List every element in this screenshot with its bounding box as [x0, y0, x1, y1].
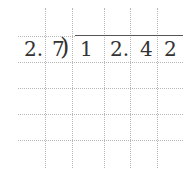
dividend-digit: 2 — [164, 38, 177, 60]
division-bracket: ) — [60, 33, 69, 61]
grid-line — [18, 140, 183, 141]
dividend-digit: 4 — [140, 38, 153, 60]
grid-line — [18, 62, 183, 63]
division-bar — [75, 35, 183, 36]
divisor-digit: 2. — [24, 38, 43, 60]
dividend-digit: 2. — [110, 38, 129, 60]
grid-line — [18, 88, 183, 89]
grid-line — [18, 114, 183, 115]
dividend-digit: 1 — [80, 38, 93, 60]
